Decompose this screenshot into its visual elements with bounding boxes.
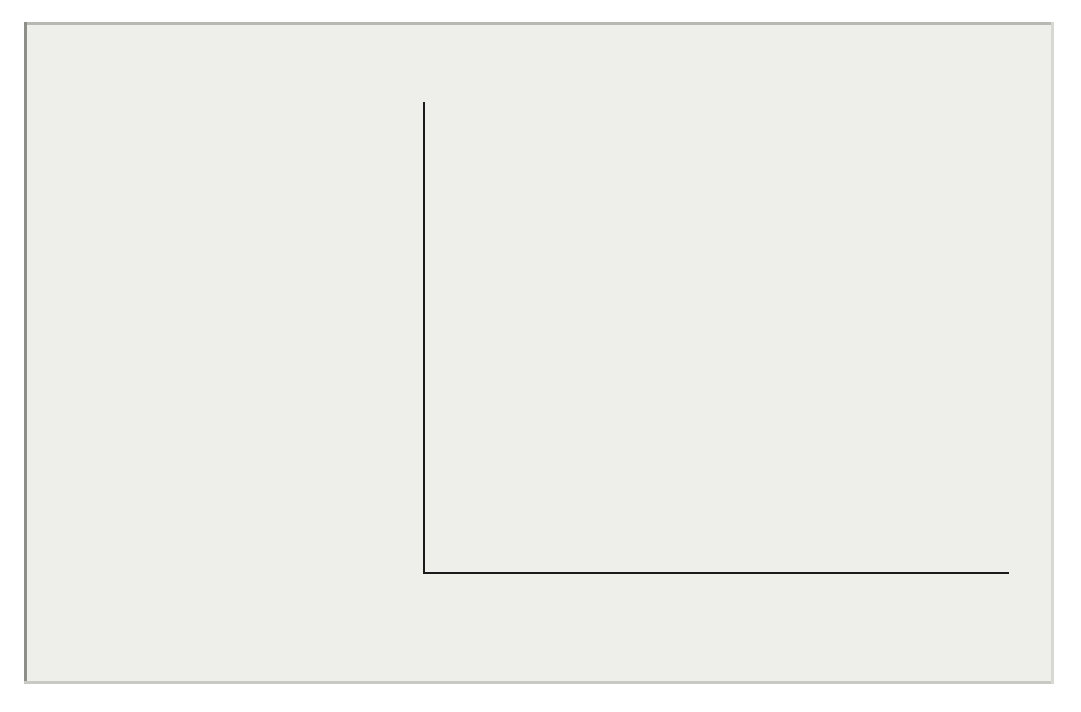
paper-edge-top [24, 22, 1054, 25]
figure-title [56, 46, 82, 73]
figure-footnote [56, 641, 65, 659]
chart-legend [862, 418, 1042, 518]
bar-chart [56, 96, 1026, 596]
paper-edge-right [1051, 22, 1054, 684]
paper-edge-bottom [24, 681, 1054, 684]
paper-edge-left [24, 22, 27, 684]
figure-page [0, 0, 1081, 712]
y-axis-line [423, 102, 425, 574]
x-axis-ticks [423, 574, 1009, 614]
